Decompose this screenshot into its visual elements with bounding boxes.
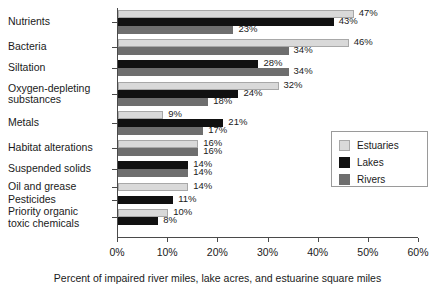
- legend-swatch-rivers: [339, 174, 350, 185]
- y-tick: [112, 22, 117, 23]
- legend-label-lakes: Lakes: [357, 157, 384, 168]
- bar-value-label: 9%: [168, 110, 182, 118]
- bar-value-label: 47%: [359, 9, 378, 17]
- bar-value-label: 24%: [243, 89, 262, 97]
- bar-rivers: [118, 47, 289, 55]
- x-tick-label: 50%: [357, 246, 378, 258]
- bar-estuaries: [118, 111, 163, 119]
- bar-rivers: [118, 169, 188, 177]
- bar-estuaries: [118, 209, 168, 217]
- legend-item-lakes: Lakes: [339, 154, 427, 170]
- category-label: Pesticides: [8, 194, 112, 206]
- category-label: Bacteria: [8, 41, 112, 53]
- bar-estuaries: [118, 10, 354, 18]
- x-tick-label: 30%: [257, 246, 278, 258]
- bar-lakes: [118, 196, 173, 204]
- bar-value-label: 21%: [228, 118, 247, 126]
- legend-label-rivers: Rivers: [357, 174, 385, 185]
- bar-value-label: 28%: [263, 59, 282, 67]
- bar-lakes: [118, 161, 188, 169]
- bar-estuaries: [118, 140, 198, 148]
- y-tick: [112, 169, 117, 170]
- bar-value-label: 32%: [284, 81, 303, 89]
- x-tick: [368, 238, 369, 242]
- bar-value-label: 16%: [203, 147, 222, 155]
- category-label: Nutrients: [8, 16, 112, 28]
- legend-swatch-estuaries: [339, 140, 350, 151]
- bar-value-label: 18%: [213, 97, 232, 105]
- bar-value-label: 11%: [178, 195, 196, 203]
- bar-estuaries: [118, 39, 349, 47]
- plot-area: 0%10%20%30%40%50%60%47%43%23%46%34%28%34…: [117, 8, 418, 238]
- bar-rivers: [118, 68, 289, 76]
- y-tick: [112, 148, 117, 149]
- category-label: Suspended solids: [8, 163, 112, 175]
- x-tick: [117, 238, 118, 242]
- bar-value-label: 34%: [294, 46, 313, 54]
- bar-rivers: [118, 26, 233, 34]
- bar-value-label: 14%: [193, 168, 212, 176]
- y-tick: [112, 187, 117, 188]
- category-label: Oxygen-depleting substances: [8, 83, 112, 106]
- legend-swatch-lakes: [339, 157, 350, 168]
- bar-value-label: 34%: [294, 67, 313, 75]
- bar-estuaries: [118, 183, 188, 191]
- x-tick-label: 10%: [157, 246, 178, 258]
- bar-value-label: 17%: [208, 126, 227, 134]
- bar-value-label: 23%: [238, 25, 257, 33]
- legend-item-rivers: Rivers: [339, 171, 427, 187]
- category-label: Habitat alterations: [8, 142, 112, 154]
- chart-legend: Estuaries Lakes Rivers: [331, 131, 428, 187]
- bar-value-label: 43%: [339, 17, 358, 25]
- y-tick: [112, 47, 117, 48]
- y-tick: [112, 217, 117, 218]
- bar-rivers: [118, 127, 203, 135]
- bar-lakes: [118, 60, 258, 68]
- category-label: Metals: [8, 117, 112, 129]
- legend-label-estuaries: Estuaries: [357, 140, 399, 151]
- y-tick: [112, 68, 117, 69]
- x-tick: [418, 238, 419, 242]
- x-tick-label: 40%: [307, 246, 328, 258]
- legend-item-estuaries: Estuaries: [339, 137, 427, 153]
- bar-lakes: [118, 18, 334, 26]
- category-label: Siltation: [8, 62, 112, 74]
- bar-lakes: [118, 217, 158, 225]
- x-tick-label: 60%: [407, 246, 428, 258]
- category-label: Oil and grease: [8, 181, 112, 193]
- category-label: Priority organic toxic chemicals: [8, 206, 112, 229]
- x-tick: [268, 238, 269, 242]
- x-tick: [318, 238, 319, 242]
- bar-rivers: [118, 148, 198, 156]
- x-tick-label: 20%: [207, 246, 228, 258]
- x-tick: [217, 238, 218, 242]
- bar-value-label: 14%: [193, 182, 212, 190]
- impaired-waters-bar-chart: NutrientsBacteriaSiltationOxygen-depleti…: [0, 0, 435, 298]
- bar-value-label: 8%: [163, 216, 177, 224]
- x-tick-label: 0%: [109, 246, 124, 258]
- bar-rivers: [118, 98, 208, 106]
- y-tick: [112, 94, 117, 95]
- category-axis-labels: NutrientsBacteriaSiltationOxygen-depleti…: [0, 8, 112, 238]
- y-tick: [112, 123, 117, 124]
- x-axis-title: Percent of impaired river miles, lake ac…: [0, 272, 435, 284]
- bar-value-label: 46%: [354, 38, 373, 46]
- y-tick: [112, 200, 117, 201]
- x-tick: [167, 238, 168, 242]
